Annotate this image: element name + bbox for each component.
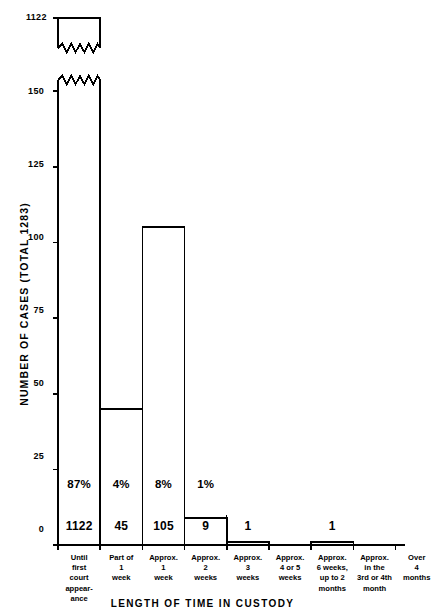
value-label-3: 9 bbox=[185, 519, 227, 533]
percent-label-1: 4% bbox=[100, 478, 142, 490]
category-label-6: Approx. 6 weeks, up to 2 months bbox=[308, 553, 356, 594]
ytick-label-150: 150 bbox=[18, 86, 44, 96]
value-label-4: 1 bbox=[227, 519, 269, 533]
percent-label-2: 8% bbox=[142, 478, 184, 490]
category-label-7: Approx. in the 3rd or 4th month bbox=[350, 553, 398, 594]
category-label-3: Approx. 2 weeks bbox=[182, 553, 230, 584]
value-label-6: 1 bbox=[311, 519, 353, 533]
category-label-2: Approx. 1 week bbox=[139, 553, 187, 584]
y-axis-title: NUMBER OF CASES (TOTAL 1283) bbox=[18, 194, 30, 414]
category-label-5: Approx. 4 or 5 weeks bbox=[266, 553, 314, 584]
percent-label-0: 87% bbox=[58, 478, 100, 490]
ytick-label-0: 0 bbox=[18, 524, 44, 534]
ytick-label-25: 25 bbox=[18, 451, 44, 461]
axis-break-label: 1122 bbox=[26, 12, 47, 22]
ytick-label-125: 125 bbox=[18, 159, 44, 169]
value-label-2: 105 bbox=[142, 519, 184, 533]
category-label-8: Over 4 months bbox=[393, 553, 435, 584]
category-label-4: Approx. 3 weeks bbox=[224, 553, 272, 584]
percent-label-3: 1% bbox=[185, 478, 227, 490]
value-label-0: 1122 bbox=[58, 519, 100, 533]
category-label-0: Until first court appear- ance bbox=[55, 553, 103, 604]
value-label-1: 45 bbox=[100, 519, 142, 533]
category-label-1: Part of 1 week bbox=[97, 553, 145, 584]
